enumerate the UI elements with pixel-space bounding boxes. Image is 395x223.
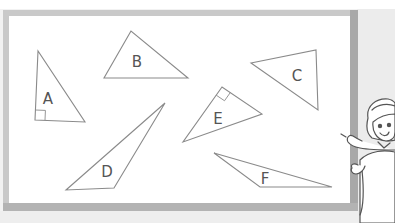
triangle-label: D bbox=[101, 163, 113, 181]
triangle-label: B bbox=[132, 53, 142, 71]
worksheet-scene: ABCDEF bbox=[0, 0, 395, 223]
board-frame bbox=[3, 10, 358, 211]
triangle-label: A bbox=[43, 90, 54, 108]
triangle-label: E bbox=[213, 110, 222, 128]
triangle-label: F bbox=[261, 170, 270, 188]
board-svg: ABCDEF bbox=[0, 0, 395, 223]
triangle-label: C bbox=[292, 67, 302, 85]
board-surface bbox=[9, 16, 350, 203]
